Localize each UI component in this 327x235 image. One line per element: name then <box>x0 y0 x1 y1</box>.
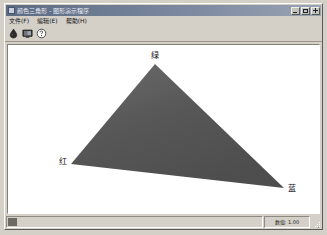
resize-grip[interactable] <box>311 216 321 228</box>
status-message <box>6 216 263 228</box>
minimize-button[interactable] <box>291 7 300 15</box>
canvas-area: 绿 红 蓝 <box>6 43 321 215</box>
menu-file[interactable]: 文件(F) <box>8 17 30 25</box>
vertex-blue-label: 蓝 <box>288 184 296 193</box>
drawing-canvas[interactable]: 绿 红 蓝 <box>7 44 320 214</box>
display-button[interactable] <box>21 27 34 40</box>
help-button[interactable] <box>35 27 48 40</box>
rgb-color-triangle <box>8 45 319 214</box>
window-controls <box>291 7 320 15</box>
maximize-button[interactable] <box>301 7 310 15</box>
application-window: 颜色三角形 - 图形演示程序 文件(F) 编辑(E) 帮助(H) <box>4 3 323 230</box>
menu-bar: 文件(F) 编辑(E) 帮助(H) <box>5 16 322 26</box>
menu-help[interactable]: 帮助(H) <box>65 17 88 25</box>
app-icon <box>8 7 15 14</box>
status-bar: 数值: 1.00 <box>6 216 321 228</box>
display-monitor-icon <box>22 28 33 39</box>
status-indicator <box>8 218 17 226</box>
title-bar[interactable]: 颜色三角形 - 图形演示程序 <box>6 5 321 16</box>
color-button[interactable] <box>7 27 20 40</box>
vertex-red-label: 红 <box>59 157 67 166</box>
toolbar <box>5 26 322 42</box>
help-circle-icon <box>36 28 47 39</box>
vertex-green-label: 绿 <box>151 51 159 60</box>
menu-edit[interactable]: 编辑(E) <box>36 17 58 25</box>
color-droplet-icon <box>8 28 19 39</box>
status-value: 数值: 1.00 <box>264 216 310 228</box>
window-title: 颜色三角形 - 图形演示程序 <box>17 7 291 14</box>
close-button[interactable] <box>311 7 320 15</box>
